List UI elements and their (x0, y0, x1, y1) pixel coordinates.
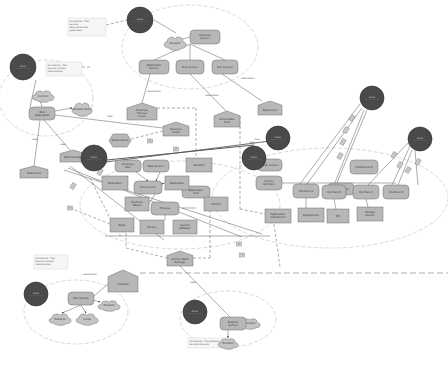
node-label: Ext. Service (217, 66, 233, 69)
edge-label: uses (190, 281, 196, 284)
actor-circle[interactable]: Actor (242, 146, 266, 170)
service-node[interactable]: Ops Service (68, 292, 94, 305)
node-label: Network (55, 318, 66, 321)
edge-label: association (241, 77, 255, 80)
node-label: Interface A (299, 190, 313, 193)
service-node[interactable]: Ext. Service (212, 60, 238, 74)
actor-circle[interactable]: Actor (408, 127, 432, 151)
cloud-node[interactable]: Network Zone (72, 103, 92, 116)
access-marker (391, 151, 397, 158)
node-label: Internet (38, 95, 48, 98)
junction-tag[interactable]: T (174, 147, 179, 151)
node-label: Network (104, 304, 115, 307)
service-node[interactable]: ServiceInterface (256, 176, 282, 190)
node-label: SystemSoftware (179, 224, 191, 230)
access-marker (405, 166, 411, 173)
object-node[interactable]: Data Store (102, 176, 128, 190)
access-marker (337, 152, 343, 159)
event-node[interactable]: Service WorkPackage (167, 251, 193, 266)
actor-circle[interactable]: Actor (360, 86, 384, 110)
object-node[interactable]: DB (327, 209, 349, 223)
node-label: Data Store (108, 182, 122, 185)
service-node[interactable]: Tech Service (176, 60, 204, 74)
service-node[interactable]: Core Service (134, 181, 162, 194)
node-label: DB (336, 215, 340, 218)
annotation-note: Annotation: Theservicedescription textgo… (68, 18, 106, 36)
actor-label: Actor (33, 292, 39, 295)
node-label: Network Zone (73, 108, 92, 111)
object-node[interactable]: ApplicationComponent (265, 209, 291, 223)
event-node[interactable]: Data Event (258, 101, 282, 115)
service-node[interactable]: Interface B (322, 185, 346, 199)
event-node[interactable]: BusinessProcessEvent (127, 103, 157, 120)
event-node[interactable]: Contract (108, 270, 138, 292)
object-node[interactable]: Network (186, 158, 212, 172)
service-node[interactable]: WebApplication (29, 107, 55, 120)
object-node[interactable]: Device (140, 220, 164, 234)
node-label: Web Event (27, 172, 41, 175)
node-label: RegistryService (228, 321, 239, 327)
edge-label: uses (32, 138, 38, 141)
service-node[interactable]: Interface A (293, 184, 319, 198)
event-node[interactable]: BusinessEvent (163, 122, 189, 136)
actor-label: Actor (417, 137, 423, 140)
service-node[interactable]: ApplicationService (139, 60, 169, 74)
junction-tag[interactable]: T (68, 206, 73, 210)
service-node[interactable]: Process (151, 202, 179, 215)
svg-text:relationships: relationships (48, 70, 64, 73)
object-node[interactable]: StorageDevice (357, 207, 383, 221)
node-label: Interface B (327, 191, 341, 194)
edge-label: association (147, 90, 161, 93)
svg-text:goes here...: goes here... (70, 29, 84, 32)
edge-label: flow (255, 138, 260, 141)
node-label: Interface D (389, 191, 403, 194)
object-node[interactable]: Artifact (204, 197, 228, 211)
object-node[interactable]: BusinessObject (125, 197, 149, 211)
event-node[interactable]: Web Event (20, 166, 48, 178)
actor-label: Actor (20, 65, 26, 68)
actor-circle[interactable]: Actor (183, 300, 207, 324)
cloud-node[interactable]: Network (49, 314, 71, 325)
node-label: Data Service (148, 165, 165, 168)
junction-tag[interactable]: T (148, 139, 153, 143)
actor-circle[interactable]: Actor (266, 126, 290, 150)
object-node[interactable]: Node (110, 218, 134, 232)
actor-label: Actor (91, 156, 97, 159)
service-node[interactable]: RegistryService (220, 317, 246, 330)
service-node[interactable]: Interface C (353, 185, 379, 199)
actor-circle[interactable]: Actor (24, 282, 48, 306)
cloud-node[interactable]: Internet (32, 91, 54, 102)
node-label: Network (194, 164, 205, 167)
actor-circle[interactable]: Actor (81, 145, 107, 171)
diagram-canvas: Annotation: Theservicedescription textgo… (0, 0, 448, 369)
junction-tag[interactable]: T (240, 253, 245, 257)
node-label: Process (160, 207, 170, 210)
node-label: Tech Service (182, 66, 199, 69)
object-node[interactable]: Deployment (298, 208, 324, 222)
cloud-node[interactable]: Network (98, 301, 120, 311)
service-node[interactable]: BusinessService (190, 30, 220, 44)
object-node[interactable]: Application (165, 176, 189, 190)
actor-circle[interactable]: Actor (10, 54, 36, 80)
node-label: Work Package (64, 156, 83, 159)
cloud-node[interactable]: Cloud (76, 314, 98, 325)
service-node[interactable]: BusinessRole (115, 160, 141, 172)
actor-circle[interactable]: Actor (127, 7, 153, 33)
edge-label: association (83, 273, 97, 276)
node-label: Network (170, 42, 181, 45)
node-label: Application (170, 182, 185, 185)
event-node[interactable]: DeliverableItem (214, 111, 240, 127)
object-node[interactable]: SystemSoftware (173, 220, 197, 234)
svg-text:service lifecycle: service lifecycle (190, 343, 210, 346)
node-label: Requirement (112, 139, 129, 142)
service-node[interactable]: Data Service (143, 160, 169, 172)
service-node[interactable]: Component X (350, 160, 378, 174)
actor-label: Actor (275, 136, 281, 139)
service-node[interactable]: Interface D (383, 185, 409, 199)
junction-tag[interactable]: T (237, 242, 242, 246)
node-label: Deployment (303, 214, 319, 217)
requirement-node[interactable]: Requirement (109, 134, 131, 147)
edge-label: flow (250, 141, 255, 144)
actor-label: Actor (369, 96, 375, 99)
svg-text:relationships: relationships (36, 263, 52, 266)
